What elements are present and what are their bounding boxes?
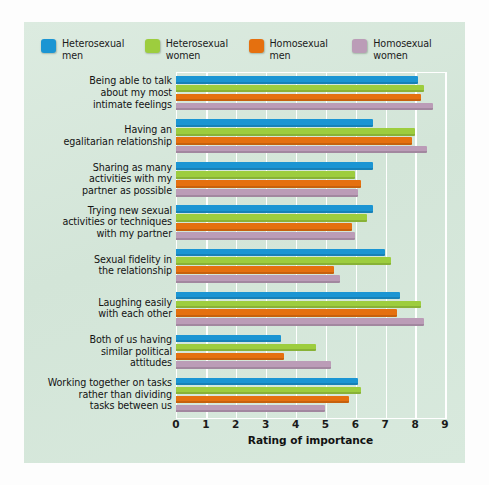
legend-label-3: Homosexual women bbox=[373, 38, 431, 61]
bar-group-3 bbox=[176, 201, 445, 244]
legend-label-2: Homosexual men bbox=[270, 38, 328, 61]
page-canvas: Heterosexual menHeterosexual womenHomose… bbox=[0, 0, 489, 485]
category-label-7: Working together on tasks rather than di… bbox=[32, 377, 172, 412]
chart-legend: Heterosexual menHeterosexual womenHomose… bbox=[41, 38, 456, 61]
bar-3-2 bbox=[176, 223, 352, 231]
bar-6-2 bbox=[176, 353, 284, 361]
bar-5-2 bbox=[176, 309, 397, 317]
bar-2-2 bbox=[176, 180, 361, 188]
bar-2-0 bbox=[176, 162, 373, 170]
bar-3-1 bbox=[176, 214, 367, 222]
bar-0-1 bbox=[176, 85, 424, 93]
bar-group-5 bbox=[176, 288, 445, 331]
bar-3-3 bbox=[176, 232, 355, 240]
gridline-9 bbox=[445, 73, 446, 418]
bar-0-3 bbox=[176, 103, 433, 111]
bar-7-1 bbox=[176, 387, 361, 395]
bar-groups bbox=[176, 72, 445, 417]
bar-0-2 bbox=[176, 94, 421, 102]
bar-6-0 bbox=[176, 335, 281, 343]
x-tick-label-7: 7 bbox=[375, 418, 395, 430]
x-tick-label-6: 6 bbox=[345, 418, 365, 430]
x-tick-label-1: 1 bbox=[196, 418, 216, 430]
x-tick-label-3: 3 bbox=[256, 418, 276, 430]
x-axis-title: Rating of importance bbox=[176, 434, 445, 446]
bar-4-3 bbox=[176, 275, 340, 283]
bar-4-1 bbox=[176, 257, 391, 265]
bar-4-2 bbox=[176, 266, 334, 274]
legend-item-1[interactable]: Heterosexual women bbox=[145, 38, 249, 61]
bar-7-3 bbox=[176, 405, 325, 413]
bar-2-3 bbox=[176, 189, 358, 197]
category-label-1: Having an egalitarian relationship bbox=[32, 124, 172, 147]
bar-7-0 bbox=[176, 378, 358, 386]
bar-3-0 bbox=[176, 205, 373, 213]
bar-4-0 bbox=[176, 249, 385, 257]
bar-1-0 bbox=[176, 119, 373, 127]
x-axis-ticks: 0123456789 bbox=[176, 418, 445, 434]
bar-group-4 bbox=[176, 245, 445, 288]
category-label-6: Both of us having similar political atti… bbox=[32, 334, 172, 369]
legend-label-1: Heterosexual women bbox=[166, 38, 228, 61]
legend-item-2[interactable]: Homosexual men bbox=[249, 38, 353, 61]
x-tick-label-8: 8 bbox=[405, 418, 425, 430]
legend-item-0[interactable]: Heterosexual men bbox=[41, 38, 145, 61]
x-tick-label-9: 9 bbox=[435, 418, 455, 430]
bar-5-1 bbox=[176, 301, 421, 309]
bar-2-1 bbox=[176, 171, 355, 179]
legend-swatch-homosexual-women bbox=[352, 39, 367, 53]
bar-0-0 bbox=[176, 76, 418, 84]
legend-label-0: Heterosexual men bbox=[62, 38, 124, 61]
legend-item-3[interactable]: Homosexual women bbox=[352, 38, 456, 61]
legend-swatch-heterosexual-women bbox=[145, 39, 160, 53]
category-axis-labels: Being able to talk about my most intimat… bbox=[32, 72, 172, 417]
bar-group-7 bbox=[176, 374, 445, 417]
category-label-0: Being able to talk about my most intimat… bbox=[32, 75, 172, 110]
bar-5-3 bbox=[176, 318, 424, 326]
x-tick-label-2: 2 bbox=[226, 418, 246, 430]
x-tick-label-4: 4 bbox=[286, 418, 306, 430]
category-label-4: Sexual fidelity in the relationship bbox=[32, 254, 172, 277]
bar-1-2 bbox=[176, 137, 412, 145]
bar-group-1 bbox=[176, 115, 445, 158]
bar-6-3 bbox=[176, 361, 331, 369]
bar-1-3 bbox=[176, 146, 427, 154]
chart-panel: Heterosexual menHeterosexual womenHomose… bbox=[24, 22, 465, 463]
bar-7-2 bbox=[176, 396, 349, 404]
x-tick-label-0: 0 bbox=[166, 418, 186, 430]
legend-swatch-heterosexual-men bbox=[41, 39, 56, 53]
category-label-2: Sharing as many activities with my partn… bbox=[32, 162, 172, 197]
bar-5-0 bbox=[176, 292, 400, 300]
bar-1-1 bbox=[176, 128, 415, 136]
legend-swatch-homosexual-men bbox=[249, 39, 264, 53]
bar-6-1 bbox=[176, 344, 316, 352]
category-label-5: Laughing easily with each other bbox=[32, 297, 172, 320]
bar-group-2 bbox=[176, 158, 445, 201]
bar-group-0 bbox=[176, 72, 445, 115]
bar-group-6 bbox=[176, 331, 445, 374]
x-tick-label-5: 5 bbox=[315, 418, 335, 430]
category-label-3: Trying new sexual activities or techniqu… bbox=[32, 205, 172, 240]
